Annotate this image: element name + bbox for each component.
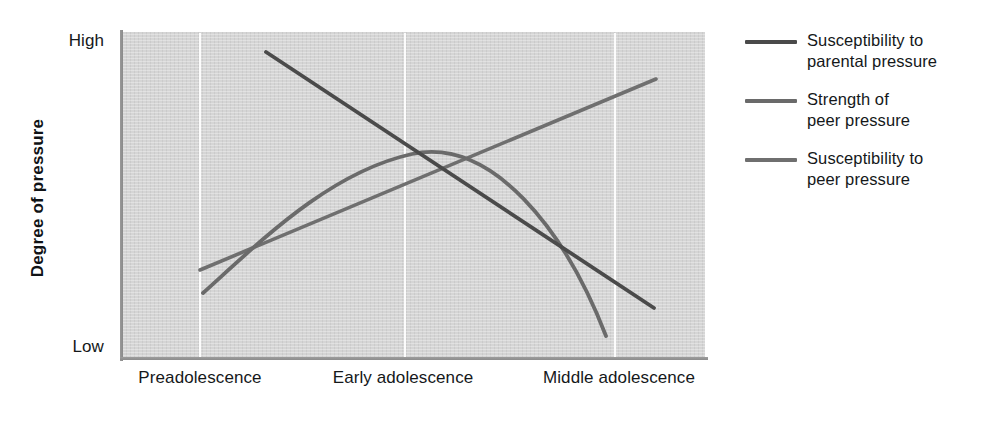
y-axis-title: Degree of pressure	[28, 88, 48, 308]
legend-line-swatch-icon	[745, 158, 797, 162]
legend-label-line-2: peer pressure	[807, 169, 923, 190]
x-axis-tick-early-adolescence: Early adolescence	[323, 368, 483, 388]
legend-label-line-1: Susceptibility to	[807, 31, 923, 49]
legend-item-label: Susceptibility to peer pressure	[807, 148, 923, 190]
legend-item-label: Strength of peer pressure	[807, 89, 910, 131]
legend-item-strength-of-peer-pressure: Strength of peer pressure	[745, 89, 993, 131]
legend-label-line-1: Susceptibility to	[807, 149, 923, 167]
legend-label-line-2: parental pressure	[807, 51, 937, 72]
chart-figure: High Low Degree of pressure Preadolescen…	[0, 0, 995, 427]
y-axis-tick-high: High	[4, 31, 104, 51]
legend: Susceptibility to parental pressure Stre…	[745, 30, 993, 207]
legend-line-swatch-icon	[745, 99, 797, 103]
legend-item-label: Susceptibility to parental pressure	[807, 30, 937, 72]
x-axis-tick-middle-adolescence: Middle adolescence	[534, 368, 704, 388]
legend-label-line-1: Strength of	[807, 90, 889, 108]
legend-item-susceptibility-to-peer-pressure: Susceptibility to peer pressure	[745, 148, 993, 190]
legend-line-swatch-icon	[745, 40, 797, 44]
legend-label-line-2: peer pressure	[807, 110, 910, 131]
legend-item-parental-pressure: Susceptibility to parental pressure	[745, 30, 993, 72]
series-line-susceptibility-to-peer-pressure	[200, 79, 656, 270]
x-axis-tick-preadolescence: Preadolescence	[120, 368, 280, 388]
series-line-susceptibility-to-parental-pressure	[266, 52, 654, 308]
y-axis-tick-low: Low	[4, 337, 104, 357]
